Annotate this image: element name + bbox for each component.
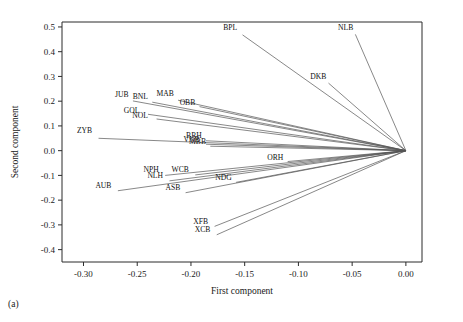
y-tick-label: -0.3 <box>41 220 56 230</box>
x-axis-title: First component <box>211 286 273 296</box>
y-tick-label: -0.4 <box>41 245 56 255</box>
y-tick-label: 0.0 <box>44 146 56 156</box>
loading-ray <box>329 83 406 151</box>
point-label: ZYB <box>77 126 92 135</box>
x-tick-label: -0.20 <box>182 269 201 279</box>
loading-ray <box>355 34 406 150</box>
point-label: JUB <box>115 90 129 99</box>
x-tick-label: -0.10 <box>289 269 308 279</box>
loading-ray <box>195 151 406 175</box>
point-label: ORH <box>267 153 284 162</box>
point-label: WCB <box>171 165 188 174</box>
point-label: OBB <box>180 98 196 107</box>
point-label: NLB <box>338 23 353 32</box>
loading-ray <box>165 151 406 176</box>
point-label: MBB <box>189 137 206 146</box>
y-tick-label: 0.3 <box>44 72 56 82</box>
y-axis-title: Second component <box>10 105 20 178</box>
y-tick-label: 0.2 <box>44 96 55 106</box>
x-tick-label: -0.30 <box>74 269 93 279</box>
y-tick-label: -0.1 <box>41 171 55 181</box>
loading-ray <box>133 101 406 151</box>
pca-biplot-figure: -0.30-0.25-0.20-0.15-0.10-0.050.000.50.4… <box>0 0 463 322</box>
point-label: MAB <box>156 89 173 98</box>
x-tick-label: 0.00 <box>398 269 414 279</box>
y-tick-label: -0.2 <box>41 195 55 205</box>
panel-label: (a) <box>8 299 19 309</box>
point-label: NOL <box>132 111 148 120</box>
x-tick-label: -0.15 <box>235 269 254 279</box>
x-tick-label: -0.25 <box>128 269 147 279</box>
y-tick-label: 0.4 <box>44 47 56 57</box>
point-label: BPL <box>223 23 237 32</box>
loading-ray <box>169 151 405 181</box>
pca-biplot-svg: -0.30-0.25-0.20-0.15-0.10-0.050.000.50.4… <box>0 0 463 322</box>
axes-group: -0.30-0.25-0.20-0.15-0.10-0.050.000.50.4… <box>41 22 422 279</box>
loading-ray <box>217 151 406 235</box>
ray-group <box>99 34 406 234</box>
point-label-group: BPLNLBDKBJUBBNLMABOBBGOLNOLZYBBRHVNBMBBO… <box>77 23 353 235</box>
x-tick-label: -0.05 <box>343 269 362 279</box>
point-label: NDG <box>215 173 232 182</box>
point-label: XCB <box>195 225 211 234</box>
point-label: BNL <box>133 92 149 101</box>
loading-ray <box>186 151 406 193</box>
loading-ray <box>206 141 406 151</box>
point-label: AUB <box>95 181 111 190</box>
point-label: NLH <box>147 171 163 180</box>
point-label: ASB <box>165 183 180 192</box>
y-tick-label: 0.1 <box>44 121 55 131</box>
y-tick-label: 0.5 <box>44 22 56 32</box>
point-label: DKB <box>310 72 326 81</box>
